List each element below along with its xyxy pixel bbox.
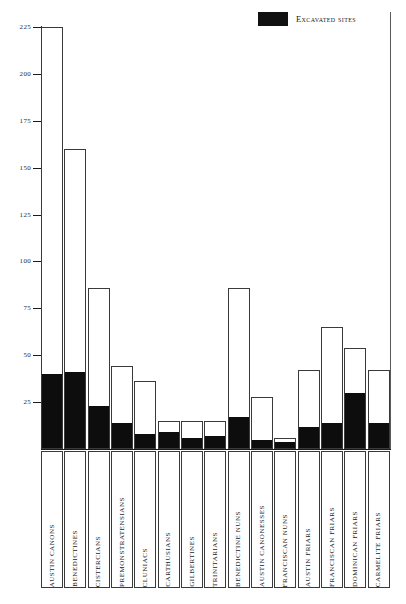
bar-excavated-segment <box>41 374 63 449</box>
y-axis-tick-label: 225 <box>20 23 31 31</box>
category-label-text: DOMINICAN FRIARS <box>352 505 359 587</box>
y-axis-tick-label: 50 <box>23 351 31 359</box>
bar-carthusians <box>158 421 180 449</box>
bar-benedictines <box>64 149 86 449</box>
bar-cistercians <box>88 288 110 449</box>
bar-excavated-segment <box>181 438 203 449</box>
category-label-carmelite-friars: CARMELITE FRIARS <box>368 451 390 588</box>
category-label-text: AUSTIN CANONS <box>49 518 56 587</box>
category-label-franciscan-friars: FRANCISCAN FRIARS <box>321 451 343 588</box>
bar-cluniacs <box>134 381 156 449</box>
category-label-text: CARMELITE FRIARS <box>375 506 382 587</box>
bar-trinitarians <box>204 421 226 449</box>
bar-dominican-friars <box>344 348 366 449</box>
bar-excavated-segment <box>158 432 180 449</box>
category-label-carthusians: CARTHUSIANS <box>158 451 180 588</box>
category-label-text: BENEDICTINE NUNS <box>235 505 242 587</box>
bar-excavated-segment <box>298 427 320 450</box>
y-axis-tick-label: 125 <box>20 211 31 219</box>
category-label-benedictine-nuns: BENEDICTINE NUNS <box>228 451 250 588</box>
bar-excavated-segment <box>228 417 250 449</box>
category-label-text: CARTHUSIANS <box>165 526 172 587</box>
bar-excavated-segment <box>134 434 156 449</box>
bar-excavated-segment <box>321 423 343 449</box>
category-label-text: AUSTIN FRIARS <box>305 522 312 587</box>
bar-benedictine-nuns <box>228 288 250 449</box>
bar-austin-canons <box>41 27 63 449</box>
bar-excavated-segment <box>274 442 296 450</box>
bar-franciscan-nuns <box>274 438 296 449</box>
category-label-premonstratensians: PREMONSTRATENSIANS <box>111 451 133 588</box>
bar-excavated-segment <box>88 406 110 449</box>
category-label-text: FRANCISCAN FRIARS <box>329 501 336 587</box>
category-label-text: GILBERTINES <box>189 530 196 587</box>
category-label-text: PREMONSTRATENSIANS <box>119 491 126 587</box>
category-label-franciscan-nuns: FRANCISCAN NUNS <box>274 451 296 588</box>
category-label-austin-canons: AUSTIN CANONS <box>41 451 63 588</box>
bar-excavated-segment <box>344 393 366 449</box>
category-label-trinitarians: TRINITARIANS <box>204 451 226 588</box>
category-label-text: CLUNIACS <box>142 542 149 587</box>
category-labels-container: AUSTIN CANONSBENEDICTINESCISTERCIANSPREM… <box>41 451 391 588</box>
y-axis-tick-label: 175 <box>20 117 31 125</box>
category-label-dominican-friars: DOMINICAN FRIARS <box>344 451 366 588</box>
bar-carmelite-friars <box>368 370 390 449</box>
plot-area: 225200175150125100755025 AUSTIN CANONSBE… <box>0 0 406 604</box>
bar-premonstratensians <box>111 366 133 449</box>
bar-franciscan-friars <box>321 327 343 449</box>
bar-austin-friars <box>298 370 320 449</box>
category-label-cistercians: CISTERCIANS <box>88 451 110 588</box>
category-label-text: CISTERCIANS <box>95 530 102 587</box>
y-axis-tick-label: 200 <box>20 70 31 78</box>
category-label-benedictines: BENEDICTINES <box>64 451 86 588</box>
bar-chart: Excavated sites 225200175150125100755025… <box>0 0 406 604</box>
category-label-text: TRINITARIANS <box>212 526 219 587</box>
y-axis-tick-label: 100 <box>20 257 31 265</box>
y-axis-tick-label: 75 <box>23 304 31 312</box>
category-label-cluniacs: CLUNIACS <box>134 451 156 588</box>
bar-excavated-segment <box>368 423 390 449</box>
y-axis-tick-label: 150 <box>20 164 31 172</box>
bar-excavated-segment <box>111 423 133 449</box>
category-label-text: FRANCISCAN NUNS <box>282 508 289 587</box>
category-label-text: BENEDICTINES <box>72 524 79 587</box>
bar-excavated-segment <box>204 436 226 449</box>
bar-excavated-segment <box>64 372 86 449</box>
category-label-gilbertines: GILBERTINES <box>181 451 203 588</box>
bar-excavated-segment <box>251 440 273 449</box>
category-label-austin-canonesses: AUSTIN CANONESSES <box>251 451 273 588</box>
y-axis-tick-label: 25 <box>23 398 31 406</box>
category-label-austin-friars: AUSTIN FRIARS <box>298 451 320 588</box>
bar-gilbertines <box>181 421 203 449</box>
category-label-text: AUSTIN CANONESSES <box>259 499 266 587</box>
bar-austin-canonesses <box>251 397 273 450</box>
